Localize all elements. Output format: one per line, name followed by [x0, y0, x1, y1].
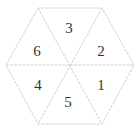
region-label-right-upper: 2 — [97, 43, 105, 59]
region-label-left-upper: 6 — [33, 43, 41, 59]
region-label-right-lower: 1 — [97, 77, 105, 93]
region-label-top: 3 — [65, 20, 73, 36]
region-label-left-lower: 4 — [34, 77, 42, 93]
region-label-bottom: 5 — [64, 94, 72, 110]
hexagon-diagram: 2 3 6 4 5 1 — [0, 0, 138, 128]
